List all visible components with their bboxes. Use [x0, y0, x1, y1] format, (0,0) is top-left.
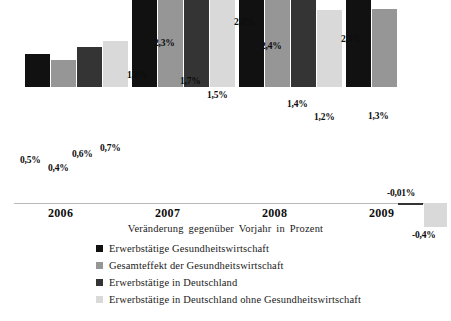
legend-swatch-icon-series4: [96, 296, 103, 303]
axis-caption-word-5: Prozent: [290, 223, 323, 234]
legend-item-erwerbstaetige-deutschland[interactable]: Erwerbstätige in Deutschland: [96, 274, 436, 291]
x-tick-2009: 2009: [369, 206, 394, 221]
data-label-2008-series1: 2,8%: [234, 17, 255, 27]
bar-2006-series2: [51, 60, 76, 87]
bar-2009-series3: [398, 203, 423, 205]
x-tick-2008: 2008: [262, 206, 287, 221]
bar-2006-series3: [77, 47, 102, 87]
data-label-2009-series2: 1,3%: [368, 111, 389, 121]
axis-caption-word-4: in: [276, 223, 285, 234]
legend-label-series1: Erwerbstätige Gesundheitswirtschaft: [109, 243, 269, 254]
x-tick-2007: 2007: [155, 206, 180, 221]
data-label-2008-series4: 1,2%: [314, 112, 335, 122]
data-label-2009-series1: 2,5%: [341, 34, 362, 44]
bar-2007-series4: [210, 0, 235, 87]
legend-swatch-icon-series1: [96, 245, 103, 252]
bar-chart: 0,5% 0,4% 0,6% 0,7% 2006 1,8% 2,3% 1,7% …: [0, 0, 451, 321]
legend-item-erwerbstaetige-deutschland-ohne-gesundheitswirtschaft[interactable]: Erwerbstätige in Deutschland ohne Gesund…: [96, 291, 436, 308]
legend-label-series3: Erwerbstätige in Deutschland: [109, 277, 237, 288]
x-tick-2006: 2006: [48, 206, 73, 221]
axis-caption-word-1: Veränderung: [128, 223, 184, 234]
data-label-2006-series4: 0,7%: [100, 143, 121, 153]
axis-caption-word-2: gegenüber: [188, 223, 234, 234]
data-label-2008-series2: 2,4%: [261, 41, 282, 51]
data-label-2006-series3: 0,6%: [72, 149, 93, 159]
bar-2008-series4: [317, 10, 342, 87]
legend-swatch-icon-series2: [96, 262, 103, 269]
data-label-2007-series3: 1,7%: [180, 76, 201, 86]
axis-caption-word-3: Vorjahr: [239, 223, 272, 234]
bar-2007-series3: [184, 0, 209, 87]
bar-2006-series1: [25, 54, 50, 87]
data-label-2009-series3: -0,01%: [387, 188, 415, 198]
axis-caption: Veränderung gegenüber Vorjahr in Prozent: [0, 223, 451, 234]
bar-2006-series4: [103, 41, 128, 87]
data-label-2006-series1: 0,5%: [20, 155, 41, 165]
chart-legend: Erwerbstätige Gesundheitswirtschaft Gesa…: [96, 240, 436, 308]
legend-item-gesamteffekt-gesundheitswirtschaft[interactable]: Gesamteffekt der Gesundheitswirtschaft: [96, 257, 436, 274]
data-label-2007-series1: 1,8%: [127, 70, 148, 80]
legend-label-series2: Gesamteffekt der Gesundheitswirtschaft: [109, 260, 284, 271]
legend-item-erwerbstaetige-gesundheitswirtschaft[interactable]: Erwerbstätige Gesundheitswirtschaft: [96, 240, 436, 257]
data-label-2006-series2: 0,4%: [48, 163, 69, 173]
data-label-2007-series2: 2,3%: [154, 38, 175, 48]
legend-label-series4: Erwerbstätige in Deutschland ohne Gesund…: [109, 294, 361, 305]
zero-baseline: [14, 203, 438, 204]
data-label-2008-series3: 1,4%: [287, 99, 308, 109]
plot-area: 0,5% 0,4% 0,6% 0,7% 2006 1,8% 2,3% 1,7% …: [0, 0, 451, 205]
data-label-2007-series4: 1,5%: [207, 90, 228, 100]
legend-swatch-icon-series3: [96, 279, 103, 286]
bar-2009-series2: [372, 9, 397, 87]
bar-2008-series3: [291, 0, 316, 87]
